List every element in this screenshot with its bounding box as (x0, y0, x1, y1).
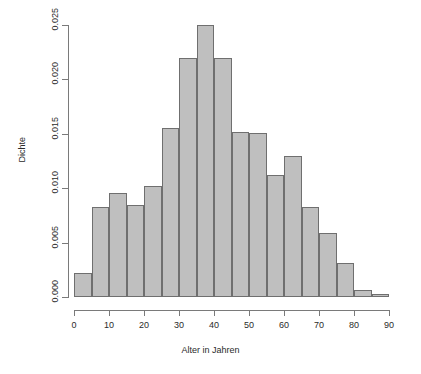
histogram-bar (109, 193, 127, 297)
histogram-bar (354, 290, 372, 297)
x-axis-tick (319, 310, 320, 316)
histogram-bar (232, 132, 250, 297)
x-axis-tick-label: 90 (384, 320, 394, 330)
x-axis-tick (179, 310, 180, 316)
histogram-bar (162, 128, 180, 297)
x-axis-tick (284, 310, 285, 316)
x-axis-tick (214, 310, 215, 316)
x-axis-tick-label: 30 (174, 320, 184, 330)
x-axis-tick (144, 310, 145, 316)
histogram-bar (214, 58, 232, 297)
y-axis-tick (62, 243, 68, 244)
y-axis-title: Dichte (17, 137, 27, 163)
y-axis-tick-label: 0.025 (50, 8, 60, 31)
x-axis-tick (74, 310, 75, 316)
x-axis-tick-label: 0 (71, 320, 76, 330)
y-axis-tick (62, 79, 68, 80)
x-axis-tick (109, 310, 110, 316)
y-axis-tick (62, 25, 68, 26)
x-axis-title: Alter in Jahren (0, 345, 421, 355)
x-axis-tick-label: 70 (314, 320, 324, 330)
histogram-bar (337, 263, 355, 297)
y-axis-tick (62, 134, 68, 135)
x-axis-tick-label: 50 (244, 320, 254, 330)
x-axis-tick-label: 10 (104, 320, 114, 330)
histogram-bar (179, 58, 197, 297)
x-axis-tick (389, 310, 390, 316)
histogram-bar (267, 175, 285, 297)
y-axis-tick (62, 188, 68, 189)
y-axis-tick-label: 0.015 (50, 117, 60, 140)
histogram-bar (92, 207, 110, 297)
plot-area (74, 25, 389, 297)
y-axis-tick (62, 297, 68, 298)
histogram-bar (284, 156, 302, 297)
histogram-bar (372, 294, 390, 297)
y-axis-line (68, 25, 69, 298)
x-axis-tick-label: 40 (209, 320, 219, 330)
x-axis-tick-label: 60 (279, 320, 289, 330)
histogram-bar (302, 207, 320, 297)
x-axis-tick (249, 310, 250, 316)
y-axis-tick-label: 0.020 (50, 62, 60, 85)
histogram-figure: 0.0000.0050.0100.0150.0200.025 Dichte 01… (0, 0, 421, 374)
y-axis-tick-label: 0.010 (50, 171, 60, 194)
histogram-bar (144, 186, 162, 297)
histogram-bar (249, 133, 267, 297)
y-axis-tick-label: 0.005 (50, 226, 60, 249)
x-axis-tick-label: 80 (349, 320, 359, 330)
histogram-bar (74, 273, 92, 297)
histogram-bar (319, 233, 337, 297)
histogram-bar (127, 205, 145, 297)
x-axis-tick (354, 310, 355, 316)
x-axis-line (74, 310, 390, 311)
x-axis-tick-label: 20 (139, 320, 149, 330)
histogram-bar (197, 25, 215, 297)
y-axis-tick-labels: 0.0000.0050.0100.0150.0200.025 (36, 0, 60, 374)
y-axis-tick-label: 0.000 (50, 280, 60, 303)
